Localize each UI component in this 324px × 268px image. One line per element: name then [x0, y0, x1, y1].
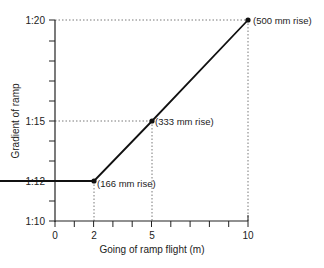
y-tick-label: 1:10: [26, 216, 46, 227]
annotation-500mm: (500 mm rise): [253, 15, 312, 26]
x-axis-title: Going of ramp flight (m): [99, 244, 204, 255]
y-tick-label: 1:15: [26, 116, 46, 127]
data-point-10m: [245, 17, 250, 22]
data-point-2m: [91, 178, 96, 183]
x-tick-label: 10: [242, 230, 254, 241]
y-tick-label: 1:20: [26, 15, 46, 26]
y-ticks: [49, 20, 55, 201]
x-tick-label: 0: [52, 230, 58, 241]
ramp-gradient-chart: 1:20 1:15 1:12 1:10 0 2 5 10 Going of ra…: [0, 0, 324, 268]
data-point-5m: [149, 118, 154, 123]
y-axis-title: Gradient of ramp: [10, 83, 21, 158]
annotation-166mm: (166 mm rise): [97, 178, 156, 189]
x-tick-label: 5: [149, 230, 155, 241]
ramp-gradient-line: [0, 20, 248, 181]
x-tick-label: 2: [91, 230, 97, 241]
annotation-333mm: (333 mm rise): [155, 116, 214, 127]
